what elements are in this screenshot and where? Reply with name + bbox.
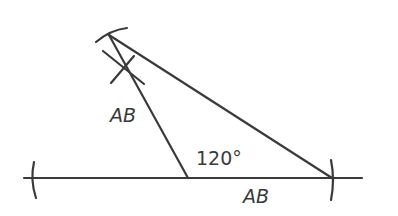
construction-diagram: AB 120° AB	[0, 0, 398, 216]
right-arc-mark	[331, 160, 333, 200]
label-angle: 120°	[196, 149, 242, 168]
label-side-lower: AB	[243, 187, 269, 206]
diagram-canvas	[0, 0, 398, 216]
left-arc-mark	[32, 162, 36, 198]
label-side-upper: AB	[110, 106, 136, 125]
